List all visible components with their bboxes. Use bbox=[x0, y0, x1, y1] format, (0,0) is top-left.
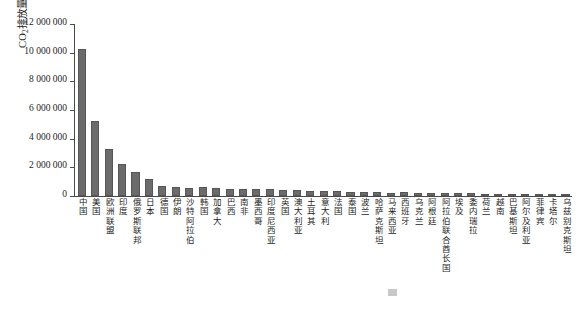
category-slot: 委内瑞拉 bbox=[465, 198, 478, 286]
category-label: 加拿大 bbox=[212, 198, 221, 226]
co2-emissions-bar-chart-figure: CO2排放量/kt 12 000 00010 000 0008 000 0006… bbox=[0, 0, 584, 312]
category-slot: 巴基斯坦 bbox=[505, 198, 518, 286]
category-slot: 加拿大 bbox=[209, 198, 222, 286]
bar-slot bbox=[277, 24, 290, 196]
category-slot: 墨西哥 bbox=[250, 198, 263, 286]
bar bbox=[266, 189, 274, 196]
y-axis-tick-label: 10 000 000 bbox=[24, 46, 67, 56]
category-slot: 越南 bbox=[492, 198, 505, 286]
bar-slot bbox=[303, 24, 316, 196]
x-axis-category-labels: 中国美国欧洲联盟印度俄罗斯联邦日本德国伊朗沙特阿拉伯韩国加拿大巴西南非墨西哥印度… bbox=[75, 198, 572, 286]
category-slot: 土耳其 bbox=[303, 198, 316, 286]
y-axis-tick-mark bbox=[70, 24, 74, 25]
bar bbox=[172, 187, 180, 196]
category-slot: 巴西 bbox=[223, 198, 236, 286]
bar-slot bbox=[478, 24, 491, 196]
bar-slot bbox=[209, 24, 222, 196]
bar bbox=[145, 179, 153, 196]
y-axis-tick-mark bbox=[70, 110, 74, 111]
bar-series bbox=[75, 24, 572, 196]
y-axis-tick-label: 0 bbox=[62, 189, 67, 199]
bar-slot bbox=[330, 24, 343, 196]
bar bbox=[494, 194, 502, 196]
category-label: 乌兹别克斯坦 bbox=[561, 198, 570, 254]
bar bbox=[521, 194, 529, 196]
bar-slot bbox=[156, 24, 169, 196]
bar-slot bbox=[290, 24, 303, 196]
bar bbox=[360, 192, 368, 196]
bar bbox=[279, 190, 287, 196]
category-slot: 荷兰 bbox=[478, 198, 491, 286]
category-slot: 德国 bbox=[156, 198, 169, 286]
category-slot: 阿根廷 bbox=[424, 198, 437, 286]
category-label: 意大利 bbox=[319, 198, 328, 226]
category-label: 美国 bbox=[91, 198, 100, 217]
y-axis-title-subscript: 2 bbox=[21, 29, 30, 33]
category-slot: 沙特阿拉伯 bbox=[183, 198, 196, 286]
category-label: 委内瑞拉 bbox=[467, 198, 476, 236]
bar bbox=[481, 194, 489, 196]
bar-slot bbox=[344, 24, 357, 196]
category-label: 哈萨克斯坦 bbox=[373, 198, 382, 245]
category-label: 马来西亚 bbox=[387, 198, 396, 236]
bar-slot bbox=[169, 24, 182, 196]
bar-slot bbox=[183, 24, 196, 196]
bar bbox=[454, 193, 462, 196]
bar-slot bbox=[317, 24, 330, 196]
bar-slot bbox=[518, 24, 531, 196]
category-label: 阿尔及利亚 bbox=[521, 198, 530, 245]
category-slot: 欧洲联盟 bbox=[102, 198, 115, 286]
bar bbox=[185, 188, 193, 196]
bar-slot bbox=[196, 24, 209, 196]
bar bbox=[427, 193, 435, 196]
y-axis-tick-mark bbox=[70, 53, 74, 54]
y-axis-tick-label: 4 000 000 bbox=[29, 132, 67, 142]
category-label: 欧洲联盟 bbox=[104, 198, 113, 236]
category-label: 巴基斯坦 bbox=[507, 198, 516, 236]
category-label: 伊朗 bbox=[172, 198, 181, 217]
category-slot: 阿尔及利亚 bbox=[518, 198, 531, 286]
category-label: 中国 bbox=[77, 198, 86, 217]
category-label: 俄罗斯联邦 bbox=[131, 198, 140, 245]
bar bbox=[400, 192, 408, 196]
category-label: 乌克兰 bbox=[413, 198, 422, 226]
category-label: 土耳其 bbox=[306, 198, 315, 226]
category-slot: 印度 bbox=[115, 198, 128, 286]
bar-slot bbox=[236, 24, 249, 196]
category-slot: 哈萨克斯坦 bbox=[371, 198, 384, 286]
category-label: 荷兰 bbox=[481, 198, 490, 217]
y-axis-tick-label: 12 000 000 bbox=[24, 17, 67, 27]
bar bbox=[467, 193, 475, 196]
bar bbox=[346, 192, 354, 196]
bar-slot bbox=[75, 24, 88, 196]
bar-slot bbox=[250, 24, 263, 196]
category-label: 阿根廷 bbox=[427, 198, 436, 226]
category-label: 南非 bbox=[239, 198, 248, 217]
bar-slot bbox=[424, 24, 437, 196]
x-axis-line bbox=[74, 196, 572, 197]
category-label: 墨西哥 bbox=[252, 198, 261, 226]
category-slot: 马来西亚 bbox=[384, 198, 397, 286]
bar-slot bbox=[102, 24, 115, 196]
bar-slot bbox=[532, 24, 545, 196]
category-slot: 阿拉伯联合酋长国 bbox=[438, 198, 451, 286]
bar bbox=[226, 189, 234, 196]
bar-slot bbox=[142, 24, 155, 196]
category-label: 埃及 bbox=[454, 198, 463, 217]
bar-slot bbox=[398, 24, 411, 196]
bar bbox=[548, 194, 556, 196]
category-slot: 美国 bbox=[88, 198, 101, 286]
bar-slot bbox=[129, 24, 142, 196]
category-slot: 英国 bbox=[277, 198, 290, 286]
category-label: 菲律宾 bbox=[534, 198, 543, 226]
category-slot: 澳大利亚 bbox=[290, 198, 303, 286]
y-axis-tick-label: 8 000 000 bbox=[29, 74, 67, 84]
category-slot: 波兰 bbox=[357, 198, 370, 286]
category-label: 波兰 bbox=[360, 198, 369, 217]
bar bbox=[78, 49, 86, 196]
category-label: 西班牙 bbox=[400, 198, 409, 226]
bar-slot bbox=[505, 24, 518, 196]
bar bbox=[333, 191, 341, 196]
category-slot: 韩国 bbox=[196, 198, 209, 286]
bar bbox=[373, 192, 381, 196]
